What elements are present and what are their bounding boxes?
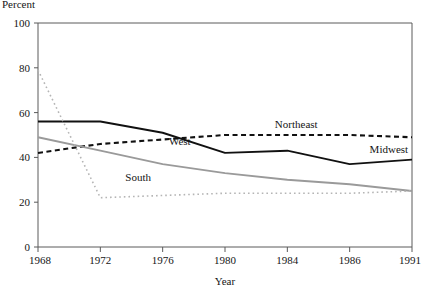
chart-container: Percent 020406080100 1968197219761980198…	[0, 0, 429, 293]
y-tick-label: 100	[14, 17, 31, 29]
percent-axis-title: Percent	[2, 0, 35, 10]
y-tick-label: 20	[19, 196, 31, 208]
x-tick-label: 1968	[29, 254, 52, 266]
x-tick-label: 1976	[152, 254, 175, 266]
series-label-midwest: Midwest	[370, 143, 409, 155]
y-tick-label: 80	[19, 62, 31, 74]
series-label-south: South	[125, 171, 151, 183]
y-tick-label: 60	[19, 107, 31, 119]
y-tick-label: 0	[25, 241, 31, 253]
x-axis-title: Year	[215, 275, 236, 287]
series-label-northeast: Northeast	[275, 118, 318, 130]
x-tick-label: 1991	[399, 254, 421, 266]
chart-background	[0, 0, 429, 293]
line-chart: Percent 020406080100 1968197219761980198…	[0, 0, 429, 293]
x-tick-label: 1984	[276, 254, 299, 266]
x-tick-label: 1980	[214, 254, 237, 266]
x-tick-label: 1972	[89, 254, 111, 266]
x-tick-label: 1986	[339, 254, 362, 266]
series-label-west: West	[169, 135, 191, 147]
y-tick-label: 40	[19, 151, 31, 163]
